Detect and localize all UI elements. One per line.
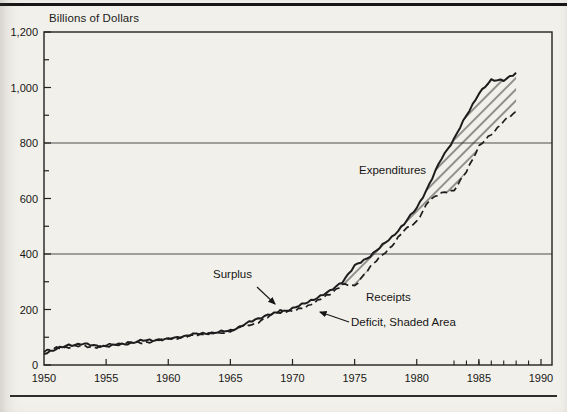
x-tick-label: 1975 [342,372,366,384]
y-tick-label: 400 [20,248,38,260]
plot-frame [44,32,552,365]
x-tick-label: 1990 [529,372,553,384]
expenditures-series-label: Expenditures [359,164,426,176]
y-tick-label: 1,000 [10,82,38,94]
y-tick-label: 200 [20,304,38,316]
bottom-rule [10,395,557,397]
x-tick-label: 1980 [405,372,429,384]
deficit-annotation-label: Deficit, Shaded Area [351,316,456,328]
x-tick-label: 1960 [156,372,180,384]
x-tick-label: 1970 [280,372,304,384]
y-tick-label: 600 [20,193,38,205]
x-tick-label: 1965 [218,372,242,384]
surplus-arrow [257,287,275,304]
deficit-shaded-area [330,73,516,295]
x-tick-label: 1950 [32,372,56,384]
expenditures-line [44,73,516,354]
deficit-arrow [320,312,349,322]
scanned-chart-page: Billions of Dollars 02004006008001,0001,… [0,0,567,412]
line-chart: 02004006008001,0001,20019501955196019651… [0,0,567,412]
receipts-series-label: Receipts [366,291,411,303]
y-tick-label: 1,200 [10,26,38,38]
x-tick-label: 1985 [467,372,491,384]
y-tick-label: 0 [32,359,38,371]
y-tick-label: 800 [20,137,38,149]
x-tick-label: 1955 [94,372,118,384]
surplus-annotation-label: Surplus [213,268,252,280]
